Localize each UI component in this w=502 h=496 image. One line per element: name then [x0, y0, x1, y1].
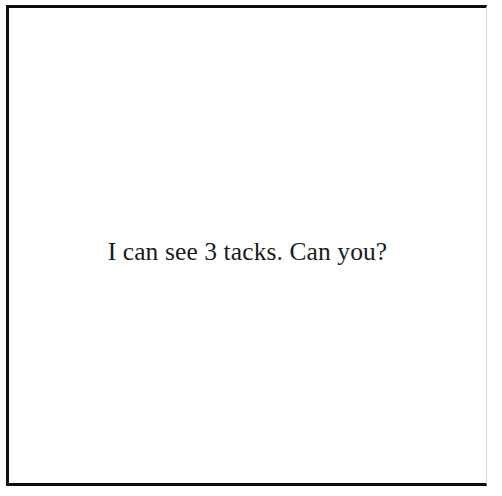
caption-text: I can see 3 tacks. Can you?	[108, 239, 388, 265]
card-frame: I can see 3 tacks. Can you?	[6, 5, 487, 486]
caption-area: I can see 3 tacks. Can you?	[9, 230, 486, 274]
page-surface: I can see 3 tacks. Can you?	[0, 0, 502, 496]
